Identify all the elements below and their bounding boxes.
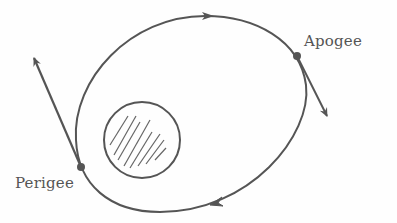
orbit-diagram: Apogee Perigee	[0, 0, 397, 223]
perigee-velocity-arrow	[34, 58, 81, 167]
earth-hatching	[110, 116, 166, 168]
perigee-label: Perigee	[15, 174, 74, 192]
earth-body	[104, 102, 180, 178]
orbit-direction-arrow-bottom	[210, 197, 223, 206]
orbit-path	[76, 16, 307, 212]
apogee-velocity-arrow	[297, 56, 327, 116]
apogee-label: Apogee	[304, 32, 362, 50]
